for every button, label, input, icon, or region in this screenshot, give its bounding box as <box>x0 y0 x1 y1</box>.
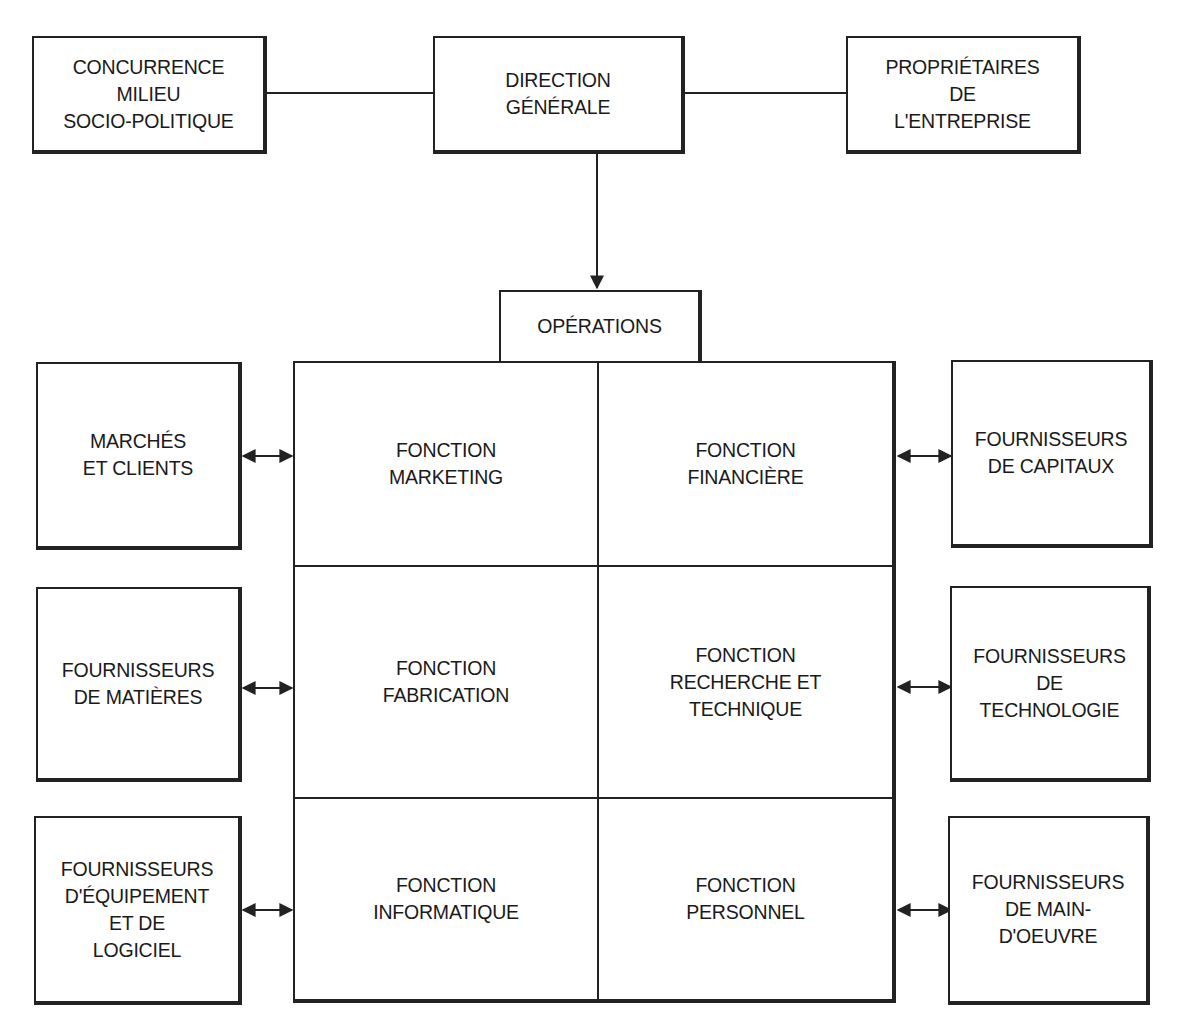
partner-equipment-label: FOURNISSEURS D'ÉQUIPEMENT ET DE LOGICIEL <box>61 856 214 964</box>
partner-technology-label: FOURNISSEURS DE TECHNOLOGIE <box>973 643 1126 724</box>
function-research-label: FONCTION RECHERCHE ET TECHNIQUE <box>670 642 821 723</box>
partner-labour-label: FOURNISSEURS DE MAIN- D'OEUVRE <box>972 869 1125 950</box>
owners-box: PROPRIÉTAIRES DE L'ENTREPRISE <box>846 36 1081 154</box>
functions-grid: FONCTION MARKETING FONCTION FINANCIÈRE F… <box>293 361 896 1003</box>
function-it-label: FONCTION INFORMATIQUE <box>373 872 519 926</box>
function-research: FONCTION RECHERCHE ET TECHNIQUE <box>599 567 892 797</box>
environment-label: CONCURRENCE MILIEU SOCIO-POLITIQUE <box>63 54 233 135</box>
partner-materials-label: FOURNISSEURS DE MATIÈRES <box>62 657 215 711</box>
management-box: DIRECTION GÉNÉRALE <box>433 36 685 154</box>
partner-markets-box: MARCHÉS ET CLIENTS <box>36 362 242 550</box>
partner-materials-box: FOURNISSEURS DE MATIÈRES <box>36 587 242 782</box>
management-label: DIRECTION GÉNÉRALE <box>505 67 610 121</box>
function-finance-label: FONCTION FINANCIÈRE <box>687 437 803 491</box>
function-marketing: FONCTION MARKETING <box>295 363 597 565</box>
operations-label: OPÉRATIONS <box>537 313 661 340</box>
partner-capital-box: FOURNISSEURS DE CAPITAUX <box>951 360 1153 548</box>
environment-box: CONCURRENCE MILIEU SOCIO-POLITIQUE <box>32 36 267 154</box>
partner-markets-label: MARCHÉS ET CLIENTS <box>83 428 193 482</box>
owners-label: PROPRIÉTAIRES DE L'ENTREPRISE <box>885 54 1039 135</box>
function-manufacturing-label: FONCTION FABRICATION <box>383 655 509 709</box>
function-personnel-label: FONCTION PERSONNEL <box>686 872 805 926</box>
function-marketing-label: FONCTION MARKETING <box>389 437 503 491</box>
partner-technology-box: FOURNISSEURS DE TECHNOLOGIE <box>950 586 1151 782</box>
partner-equipment-box: FOURNISSEURS D'ÉQUIPEMENT ET DE LOGICIEL <box>34 816 242 1005</box>
function-personnel: FONCTION PERSONNEL <box>599 799 892 999</box>
partner-labour-box: FOURNISSEURS DE MAIN- D'OEUVRE <box>948 816 1150 1005</box>
partner-capital-label: FOURNISSEURS DE CAPITAUX <box>975 426 1128 480</box>
function-manufacturing: FONCTION FABRICATION <box>295 567 597 797</box>
function-it: FONCTION INFORMATIQUE <box>295 799 597 999</box>
function-finance: FONCTION FINANCIÈRE <box>599 363 892 565</box>
operations-box: OPÉRATIONS <box>499 290 702 363</box>
